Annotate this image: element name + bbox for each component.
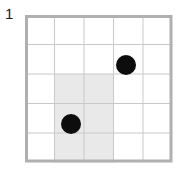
puzzle-figure: 1 [0, 0, 182, 170]
grid-dot[interactable] [61, 114, 81, 134]
puzzle-number-label: 1 [5, 6, 13, 21]
puzzle-grid[interactable] [25, 15, 173, 163]
grid-dot[interactable] [116, 55, 136, 75]
grid-canvas [25, 15, 173, 163]
